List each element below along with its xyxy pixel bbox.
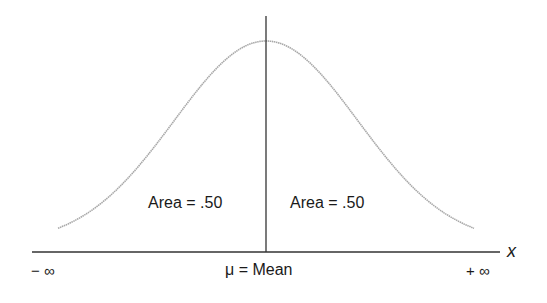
area-right-label: Area = .50 <box>290 194 364 212</box>
normal-curve-diagram <box>0 0 547 303</box>
area-left-label: Area = .50 <box>148 194 222 212</box>
positive-infinity-label: + ∞ <box>466 262 490 280</box>
negative-infinity-label: − ∞ <box>31 262 55 280</box>
mean-label: μ = Mean <box>225 261 292 279</box>
x-axis-label: x <box>507 242 516 260</box>
